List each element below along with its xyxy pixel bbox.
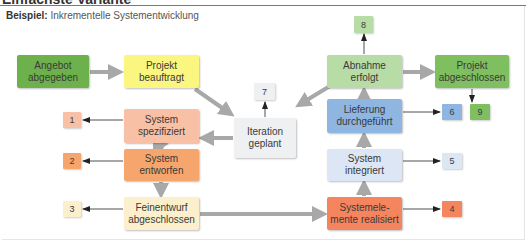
output-badge-9: 9 [470,104,490,120]
output-badge-1: 1 [63,112,81,128]
output-badge-5: 5 [442,153,462,169]
output-badge-2: 2 [63,153,81,169]
node-abnahme-erfolgt: Abnahme erfolgt [327,55,402,88]
node-iteration-geplant: Iteration geplant [234,118,296,158]
node-system-spezifiziert: System spezifiziert [124,109,199,143]
node-lieferung-durchgefuehrt: Lieferung durchgeführt [327,99,402,133]
node-projekt-abgeschlossen: Projekt abgeschlossen [435,55,509,88]
output-badge-6: 6 [442,104,462,120]
output-badge-7: 7 [254,83,275,100]
output-badge-3: 3 [63,201,81,217]
node-feinentwurf-abgeschlossen: Feinentwurf abgeschlossen [124,197,199,230]
output-badge-4: 4 [442,201,462,217]
output-badge-8: 8 [354,16,373,33]
node-system-entworfen: System entworfen [124,149,199,181]
node-system-integriert: System integriert [327,149,402,181]
node-projekt-beauftragt: Projekt beauftragt [124,55,199,88]
node-systemelemente-realisiert: Systemele- mente realisiert [327,197,402,230]
node-angebot-abgegeben: Angebot abgegeben [17,55,89,88]
